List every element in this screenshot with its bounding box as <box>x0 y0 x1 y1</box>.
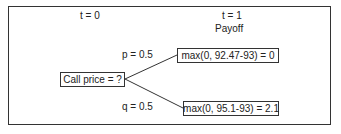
time-label-0: t = 0 <box>80 10 100 21</box>
tree-edges <box>0 0 341 134</box>
payoff-node-down: max(0, 95.1-93) = 2.1 <box>183 101 279 116</box>
root-node: Call price = ? <box>60 72 125 87</box>
payoff-heading: Payoff <box>215 23 243 34</box>
branch-prob-down: q = 0.5 <box>122 101 153 112</box>
payoff-node-up: max(0, 92.47-93) = 0 <box>177 48 279 63</box>
branch-prob-up: p = 0.5 <box>122 49 153 60</box>
time-label-1: t = 1 <box>222 10 242 21</box>
